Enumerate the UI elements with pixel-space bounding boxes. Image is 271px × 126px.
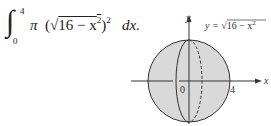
curve-label-prefix: y =: [204, 20, 221, 31]
x-axis-label: x: [263, 75, 269, 86]
origin-label: 0: [180, 84, 185, 95]
x-axis-arrow-icon: [255, 79, 262, 84]
curve-label-radicand: 16 − x: [227, 20, 253, 31]
sphere-figure: y x 0 4 y = √16 − x2: [0, 0, 271, 126]
x-tick-4-label: 4: [230, 84, 235, 95]
curve-label: y = √16 − x2: [204, 19, 256, 31]
y-axis-label: y: [185, 12, 191, 23]
